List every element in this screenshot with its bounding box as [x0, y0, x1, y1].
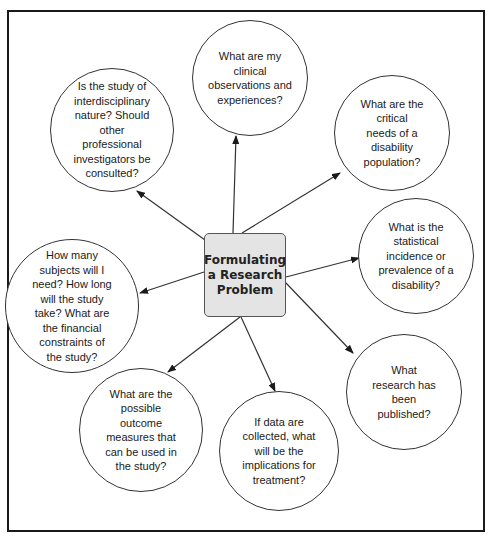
node-implications-treatment: If data are collected, what will be the …	[219, 391, 339, 511]
arrow-to-clinical-observations	[233, 136, 236, 233]
arrow-to-implications-treatment	[241, 317, 275, 391]
central-topic-label: Formulating a Research Problem	[204, 253, 286, 298]
arrow-to-critical-needs	[242, 173, 340, 233]
arrow-to-subjects-time-cost	[140, 272, 204, 293]
node-clinical-observations: What are my clinical observations and ex…	[192, 20, 308, 136]
node-critical-needs: What are the critical needs of a disabil…	[334, 75, 450, 191]
node-text: What research has been published?	[362, 363, 446, 421]
arrow-to-outcome-measures	[168, 317, 240, 372]
central-topic-box: Formulating a Research Problem	[204, 233, 286, 317]
node-interdisciplinary: Is the study of interdisciplinary nature…	[50, 68, 174, 192]
arrow-to-research-published	[286, 283, 353, 353]
node-outcome-measures: What are the possible outcome measures t…	[79, 368, 203, 492]
node-statistical-incidence: What is the statistical incidence or pre…	[358, 198, 474, 314]
node-text: How many subjects will I need? How long …	[22, 248, 122, 364]
node-text: What are the possible outcome measures t…	[95, 387, 187, 474]
node-text: If data are collected, what will be the …	[232, 415, 325, 488]
arrow-to-interdisciplinary	[137, 191, 205, 240]
node-research-published: What research has been published?	[346, 334, 462, 450]
node-text: Is the study of interdisciplinary nature…	[63, 79, 160, 181]
node-text: What is the statistical incidence or pre…	[368, 220, 463, 293]
node-subjects-time-cost: How many subjects will I need? How long …	[5, 239, 139, 373]
arrow-to-statistical-incidence	[286, 258, 359, 277]
node-text: What are my clinical observations and ex…	[193, 49, 307, 107]
node-text: What are the critical needs of a disabil…	[335, 97, 449, 170]
